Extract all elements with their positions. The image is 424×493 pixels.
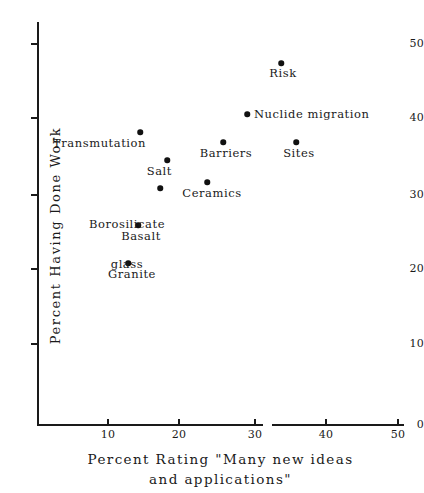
data-point-borosilicate-glass <box>157 185 163 191</box>
data-label-ceramics: Ceramics <box>182 187 241 200</box>
x-tick-10 <box>107 419 109 426</box>
data-point-nuclide-migration <box>244 111 250 117</box>
x-tick-label-10: 10 <box>93 429 123 440</box>
y-tick-label-20: 20 <box>398 263 424 274</box>
y-tick-40 <box>31 117 38 119</box>
x-axis-line-left-segment <box>37 424 263 426</box>
y-tick-30 <box>31 194 38 196</box>
data-label-nuclide-migration: Nuclide migration <box>254 108 369 121</box>
data-point-ceramics <box>204 179 210 185</box>
data-label-salt: Salt <box>147 165 172 178</box>
x-tick-50 <box>397 419 399 426</box>
data-label-barriers: Barriers <box>200 147 253 160</box>
x-axis-title: Percent Rating "Many new ideas and appli… <box>37 450 404 489</box>
data-point-barriers <box>220 139 226 145</box>
y-tick-20 <box>31 268 38 270</box>
y-tick-label-30: 30 <box>398 189 424 200</box>
y-tick-label-40: 40 <box>398 112 424 123</box>
x-tick-label-40: 40 <box>311 429 341 440</box>
data-label-granite: Granite <box>108 268 156 281</box>
x-tick-label-30: 30 <box>240 429 270 440</box>
data-point-salt <box>164 157 170 163</box>
y-tick-label-10: 10 <box>398 338 424 349</box>
x-tick-label-20: 20 <box>164 429 194 440</box>
data-label-risk: Risk <box>269 67 296 80</box>
data-label-borosilicate-glass: Borosilicate glass <box>89 192 165 298</box>
data-label-basalt: Basalt <box>121 230 161 243</box>
y-tick-label-50: 50 <box>398 38 424 49</box>
x-axis-title-line-2: and applications" <box>37 470 404 490</box>
x-axis-title-line-1: Percent Rating "Many new ideas <box>37 450 404 470</box>
scatter-plot-figure: 50 40 30 20 10 0 10 20 30 40 50 Percent … <box>0 0 424 493</box>
y-tick-50 <box>31 43 38 45</box>
data-label-transmutation: Transmutation <box>53 137 146 150</box>
x-tick-40 <box>325 419 327 426</box>
data-label-sites: Sites <box>283 147 315 160</box>
data-point-transmutation <box>137 129 143 135</box>
data-point-sites <box>293 139 299 145</box>
data-point-risk <box>278 60 284 66</box>
y-tick-10 <box>31 343 38 345</box>
x-tick-20 <box>178 419 180 426</box>
y-axis-line <box>37 22 39 426</box>
x-axis-line-right-segment <box>272 424 404 426</box>
x-tick-30 <box>254 419 256 426</box>
x-tick-label-50: 50 <box>383 429 413 440</box>
y-axis-title: Percent Having Done Work <box>48 121 63 351</box>
